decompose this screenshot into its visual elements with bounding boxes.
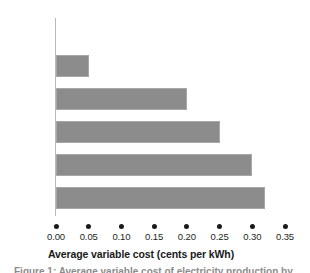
tick-dot-icon — [119, 224, 124, 229]
tick-dot-icon — [217, 224, 222, 229]
tick-dot-icon — [54, 224, 59, 229]
tick-label: 0.15 — [145, 231, 163, 242]
x-axis-tick: 0.35 — [276, 224, 294, 242]
tick-dot-icon — [86, 224, 91, 229]
caption-clipped: Figure 1: Average variable cost of elect… — [14, 266, 298, 273]
tick-label: 0.25 — [211, 231, 229, 242]
tick-label: 0.35 — [276, 231, 294, 242]
bar-row: Hydro — [56, 121, 285, 143]
x-axis-tick: 0.05 — [80, 224, 98, 242]
x-axis-tick: 0.25 — [211, 224, 229, 242]
x-axis-title: Average variable cost (cents per kWh) — [0, 248, 282, 260]
tick-label: 0.20 — [178, 231, 196, 242]
bar-row: Nuclear — [56, 55, 285, 77]
tick-label: 0.05 — [80, 231, 98, 242]
x-axis-tick: 0.00 — [47, 224, 65, 242]
bar-nuclear — [56, 55, 89, 77]
x-axis-tick: 0.10 — [112, 224, 130, 242]
tick-label: 0.00 — [47, 231, 65, 242]
tick-label: 0.30 — [243, 231, 261, 242]
bar-row: Gas-oil — [56, 88, 285, 110]
bar-hydro — [56, 121, 220, 143]
tick-dot-icon — [250, 224, 255, 229]
x-axis-tick: 0.15 — [145, 224, 163, 242]
bar-row: Coal — [56, 154, 285, 176]
bar-coal — [56, 154, 252, 176]
tick-dot-icon — [283, 224, 288, 229]
tick-dot-icon — [184, 224, 189, 229]
bar-gas-oil — [56, 88, 187, 110]
bar-row: Turbine — [56, 187, 285, 209]
x-axis-tick: 0.20 — [178, 224, 196, 242]
plot-area: WindNuclearGas-oilHydroCoalTurbine — [56, 18, 285, 216]
bar-row: Wind — [56, 22, 285, 44]
bar-turbine — [56, 187, 265, 209]
tick-dot-icon — [152, 224, 157, 229]
x-axis-tick: 0.30 — [243, 224, 261, 242]
bar-chart-figure: WindNuclearGas-oilHydroCoalTurbine 0.000… — [0, 0, 310, 273]
tick-label: 0.10 — [112, 231, 130, 242]
